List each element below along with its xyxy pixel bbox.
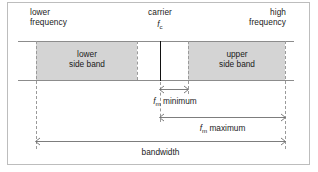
fm-min-symbol-subscript: m [156,100,161,107]
carrier-line [160,41,161,81]
guide-line-lower-sideband-edge [137,41,138,80]
label-carrier-symbol: fc [128,20,192,30]
label-high-frequency: high frequency [222,8,286,27]
dimension-arrow-fm-maximum [156,113,289,122]
dimension-label-bandwidth: bandwidth [32,148,289,158]
dimension-arrow-bandwidth [32,137,289,146]
fm-min-text: minimum [161,96,197,106]
carrier-symbol-subscript: c [160,23,163,30]
lower-side-band-label: lower side band [46,50,128,69]
fm-max-text: maximum [207,123,245,133]
dimension-label-fm-minimum: fm minimum [110,97,240,107]
upper-side-band-label: upper side band [196,50,278,69]
guide-line-lower-frequency [36,41,37,149]
dimension-arrow-fm-minimum [156,85,192,94]
label-carrier: carrier [128,8,192,18]
label-lower-frequency: lower frequency [30,8,100,27]
fm-max-symbol-subscript: m [202,127,207,134]
modulation-spectrum-diagram: lower frequency carrier fc high frequenc… [0,0,318,172]
spectrum-rail-bottom [18,80,294,81]
dimension-label-fm-maximum: fm maximum [157,124,288,134]
